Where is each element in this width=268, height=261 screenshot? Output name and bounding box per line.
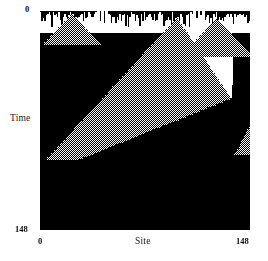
x-axis-label: Site xyxy=(135,236,151,246)
x-axis-tick-min: 0 xyxy=(38,236,42,246)
y-axis-tick-min: 0 xyxy=(25,4,29,14)
spacetime-figure: 0 148 0 148 Time Site xyxy=(0,0,268,261)
cellular-automaton-image xyxy=(40,11,250,230)
y-axis-label: Time xyxy=(10,113,31,123)
y-axis-tick-max: 148 xyxy=(15,224,28,234)
x-axis-tick-max: 148 xyxy=(236,236,249,246)
plot-area xyxy=(40,11,250,230)
